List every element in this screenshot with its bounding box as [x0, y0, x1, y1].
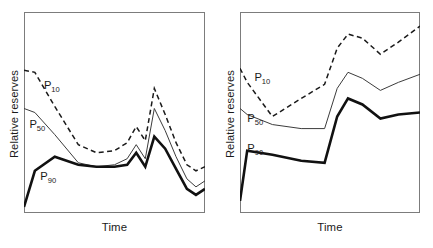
series-label-p50-left: P50	[29, 119, 45, 133]
figure: P10 P50 P90 Relative reserves Time P10 P…	[0, 0, 433, 248]
series-label-p90-left: P90	[40, 171, 56, 185]
series-label-p50-right: P50	[247, 113, 263, 127]
series-label-p90-right: P90	[247, 143, 263, 157]
series-line-p10	[240, 26, 420, 116]
chart-panel-left: P10 P50 P90 Relative reserves Time	[0, 0, 216, 248]
x-axis-label-left: Time	[24, 221, 205, 233]
series-label-p10-right: P10	[254, 72, 270, 86]
series-line-p90	[240, 98, 420, 201]
y-axis-label-right: Relative reserves	[224, 54, 236, 174]
series-label-p10-left: P10	[44, 80, 60, 94]
y-axis-label-left: Relative reserves	[8, 54, 20, 174]
plot-area-right	[240, 12, 420, 213]
chart-panel-right: P10 P50 P90 Relative reserves Time	[216, 0, 432, 248]
x-axis-label-right: Time	[240, 221, 420, 233]
